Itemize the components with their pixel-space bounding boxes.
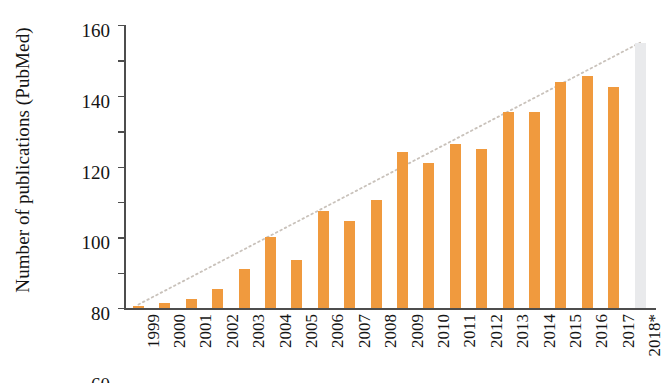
- x-tick-label: 2000: [171, 314, 188, 348]
- trendline: [124, 20, 656, 310]
- x-tick-label: 2015: [567, 314, 584, 348]
- x-tick-label: 2017: [620, 314, 637, 348]
- bar-2017: [608, 87, 619, 308]
- y-tick-label: 80: [91, 304, 110, 323]
- bar-2003: [239, 269, 250, 308]
- y-tick-label: 60: [91, 374, 110, 383]
- x-tick-label: 2018*: [646, 314, 663, 357]
- bar-2001: [186, 299, 197, 308]
- x-tick-label: 2009: [409, 314, 426, 348]
- bar-2012: [476, 149, 487, 308]
- y-axis-title: Number of publications (PubMed): [0, 0, 46, 320]
- bar-2018-projected: [635, 43, 646, 308]
- bar-2010: [423, 163, 434, 308]
- y-tick-label: 100: [82, 233, 111, 252]
- bar-2000: [159, 303, 170, 308]
- x-tick-label: 1999: [145, 314, 162, 348]
- bar-2006: [318, 211, 329, 308]
- x-tick-label: 2012: [488, 314, 505, 348]
- bar-2015: [555, 82, 566, 308]
- x-tick-label: 2006: [329, 314, 346, 348]
- y-tick-label: 140: [82, 91, 111, 110]
- x-tick-label: 2002: [224, 314, 241, 348]
- bar-2014: [529, 112, 540, 308]
- bar-2004: [265, 237, 276, 308]
- y-tick-label: 120: [82, 162, 111, 181]
- bar-2016: [582, 76, 593, 308]
- x-tick-label: 2011: [461, 314, 478, 347]
- bar-2005: [291, 260, 302, 308]
- x-tick-label: 2005: [303, 314, 320, 348]
- y-axis-title-label: Number of publications (PubMed): [12, 27, 34, 292]
- bar-2008: [371, 200, 382, 308]
- x-tick-label: 2016: [593, 314, 610, 348]
- x-tick-label: 2003: [250, 314, 267, 348]
- bar-1999: [133, 306, 144, 308]
- x-tick-label: 2014: [541, 314, 558, 348]
- publications-bar-chart: Number of publications (PubMed) 02040608…: [0, 0, 664, 383]
- x-tick-label: 2004: [277, 314, 294, 348]
- bar-2009: [397, 152, 408, 308]
- bar-2011: [450, 144, 461, 308]
- plot-area: 020406080100120140160 199920002001200220…: [124, 20, 656, 308]
- x-tick-label: 2001: [197, 314, 214, 348]
- x-tick-label: 2008: [382, 314, 399, 348]
- bar-2007: [344, 221, 355, 308]
- x-tick-label: 2013: [514, 314, 531, 348]
- bar-2002: [212, 289, 223, 308]
- x-tick-label: 2007: [356, 314, 373, 348]
- x-tick-label: 2010: [435, 314, 452, 348]
- y-tick-label: 160: [82, 21, 111, 40]
- bar-2013: [503, 112, 514, 308]
